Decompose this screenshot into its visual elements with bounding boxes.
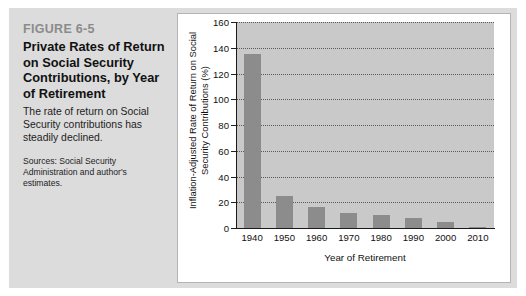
y-axis-title: Inflation-Adjusted Rate of Return on Soc… [187, 16, 210, 226]
figure-description: The rate of return on Social Security co… [23, 105, 165, 145]
x-tick-label: 2000 [435, 232, 456, 243]
chart-panel: Inflation-Adjusted Rate of Return on Soc… [177, 13, 511, 283]
figure-number: FIGURE 6-5 [23, 22, 165, 37]
x-tick-label: 1950 [274, 232, 295, 243]
gridline [236, 22, 494, 23]
gridline [236, 202, 494, 203]
y-tick-mark [231, 125, 236, 126]
gridline [236, 74, 494, 75]
x-tick-label: 1960 [306, 232, 327, 243]
bar [308, 207, 325, 228]
bar [405, 218, 422, 228]
y-tick-label: 40 [218, 171, 229, 182]
figure-caption-column: FIGURE 6-5 Private Rates of Return on So… [9, 8, 177, 288]
y-axis-line [236, 22, 237, 228]
y-tick-mark [231, 202, 236, 203]
bar [373, 215, 390, 228]
plot-area [236, 22, 494, 228]
y-tick-mark [231, 228, 236, 229]
y-tick-label: 60 [218, 145, 229, 156]
x-tick-label: 1970 [338, 232, 359, 243]
y-tick-mark [231, 177, 236, 178]
y-tick-label: 100 [213, 94, 229, 105]
x-tick-label: 1980 [370, 232, 391, 243]
gridline [236, 177, 494, 178]
gridline [236, 99, 494, 100]
x-tick-label: 1940 [241, 232, 262, 243]
x-axis-title: Year of Retirement [236, 252, 494, 263]
bar [276, 196, 293, 228]
x-tick-label: 2010 [467, 232, 488, 243]
y-tick-mark [231, 151, 236, 152]
x-axis-line [236, 228, 495, 229]
y-tick-label: 80 [218, 120, 229, 131]
gridline [236, 151, 494, 152]
bar [340, 213, 357, 228]
x-tick-label: 1990 [403, 232, 424, 243]
y-tick-label: 160 [213, 17, 229, 28]
figure-title: Private Rates of Return on Social Securi… [23, 39, 165, 101]
chart-inner: Inflation-Adjusted Rate of Return on Soc… [178, 14, 510, 282]
y-tick-label: 140 [213, 42, 229, 53]
y-tick-mark [231, 48, 236, 49]
gridline [236, 48, 494, 49]
y-tick-mark [231, 99, 236, 100]
y-tick-label: 0 [224, 223, 229, 234]
bar [244, 54, 261, 228]
y-tick-mark [231, 74, 236, 75]
figure-container: FIGURE 6-5 Private Rates of Return on So… [9, 8, 517, 288]
y-tick-label: 120 [213, 68, 229, 79]
y-tick-mark [231, 22, 236, 23]
gridline [236, 125, 494, 126]
y-tick-label: 20 [218, 197, 229, 208]
figure-source-note: Sources: Social Security Administration … [23, 156, 163, 189]
